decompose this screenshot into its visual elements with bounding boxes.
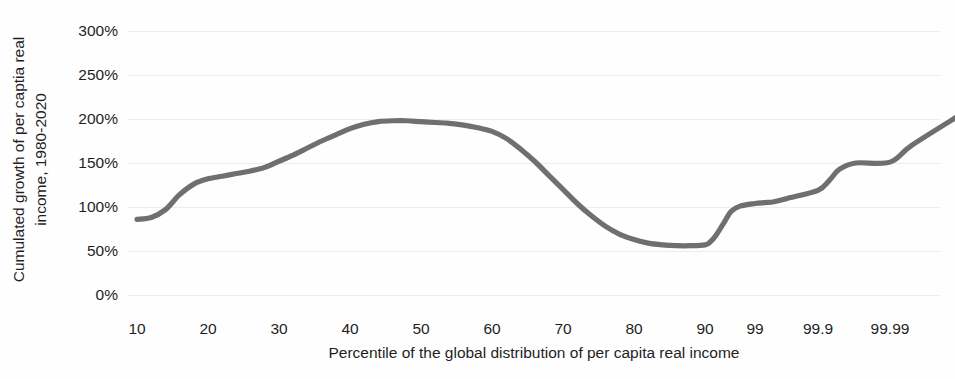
x-axis-tick-label: 90 [696, 320, 713, 338]
chart-container: Cumulated growth of per captia real inco… [0, 0, 955, 379]
x-axis-tick-label: 50 [412, 320, 429, 338]
plot-area [128, 0, 940, 318]
x-axis-title: Percentile of the global distribution of… [128, 344, 940, 362]
y-axis-tick-label: 0% [96, 286, 118, 304]
x-axis-tick-label: 20 [199, 320, 216, 338]
y-axis-title: Cumulated growth of per captia real inco… [0, 0, 62, 318]
y-axis-tick-label: 250% [78, 66, 118, 84]
series-path-cumulated-growth [137, 114, 955, 246]
y-axis-tick-label: 300% [78, 22, 118, 40]
x-axis-tick-label: 99.9 [803, 320, 833, 338]
y-axis-tick-label: 200% [78, 110, 118, 128]
x-axis-tick-label: 60 [483, 320, 500, 338]
x-axis-tick-label: 80 [625, 320, 642, 338]
x-axis-tick-label: 99.99 [871, 320, 910, 338]
y-axis-tick-label: 100% [78, 198, 118, 216]
x-axis-tick-label: 10 [128, 320, 145, 338]
y-axis-tick-label: 50% [87, 242, 118, 260]
y-axis-tick-labels: 0%50%100%150%200%250%300% [62, 0, 128, 318]
x-axis-tick-labels: 1020304050607080909999.999.99 [128, 318, 940, 342]
x-axis-tick-label: 40 [341, 320, 358, 338]
y-axis-title-line-2: income, 1980-2020 [31, 36, 53, 282]
x-axis-tick-label: 30 [270, 320, 287, 338]
x-axis-tick-label: 70 [554, 320, 571, 338]
y-axis-tick-label: 150% [78, 154, 118, 172]
x-axis-tick-label: 99 [746, 320, 763, 338]
y-axis-title-line-1: Cumulated growth of per captia real [9, 36, 31, 282]
series-line-chart [128, 0, 940, 318]
